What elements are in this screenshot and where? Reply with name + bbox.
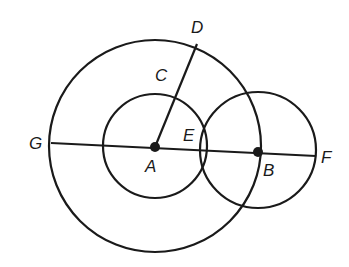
diagram-svg: D C G E A B F	[0, 0, 349, 267]
label-D: D	[191, 18, 203, 37]
label-A: A	[144, 157, 156, 176]
label-E: E	[183, 126, 195, 145]
label-C: C	[155, 66, 168, 85]
point-A-dot	[150, 142, 160, 152]
geometry-diagram: D C G E A B F	[0, 0, 349, 267]
label-B: B	[263, 161, 274, 180]
label-G: G	[29, 134, 42, 153]
label-F: F	[321, 148, 333, 167]
point-B-dot	[253, 147, 263, 157]
